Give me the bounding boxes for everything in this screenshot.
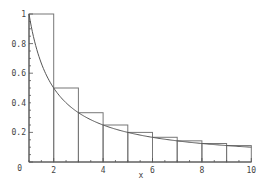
x-tick-label: 4 [101, 166, 106, 175]
origin-label: 0 [17, 164, 22, 173]
rectangle [202, 144, 227, 163]
x-tick-label: 6 [150, 166, 155, 175]
curve-1-over-x [29, 14, 251, 147]
rectangle [103, 125, 128, 162]
x-axis-label: x [139, 171, 144, 180]
rectangle [54, 88, 79, 162]
y-tick-label: 0.4 [12, 99, 27, 108]
y-tick-label: 1 [21, 10, 26, 19]
rectangle [29, 14, 54, 162]
tick-labels: 2468100.20.40.60.810x [12, 10, 257, 180]
rectangles [29, 14, 251, 162]
y-tick-label: 0.6 [12, 69, 27, 78]
x-tick-label: 8 [199, 166, 204, 175]
rectangle [153, 137, 178, 162]
x-tick-label: 2 [51, 166, 56, 175]
y-tick-label: 0.2 [12, 128, 27, 137]
rectangle [177, 141, 202, 162]
x-tick-label: 10 [246, 166, 256, 175]
chart: 2468100.20.40.60.810x [0, 0, 268, 186]
y-tick-label: 0.8 [12, 40, 27, 49]
rectangle [227, 146, 252, 162]
